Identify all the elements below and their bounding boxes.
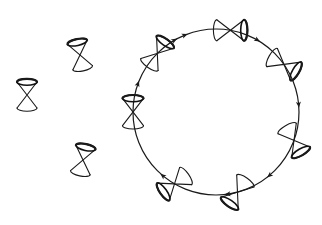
loop-cone-upper-left — [139, 33, 176, 73]
loop-arrow-icon — [181, 32, 188, 39]
loop-cone-right — [276, 120, 311, 160]
loop-cone-left — [123, 95, 144, 129]
free-cone-1 — [67, 37, 93, 73]
loop-arrow-icon — [135, 80, 142, 87]
free-cone-3 — [70, 142, 96, 178]
loop-cone-lower-right — [219, 172, 256, 212]
loop-cone-upper-right — [264, 47, 304, 82]
free-cone-2 — [17, 79, 37, 111]
loop-cone-lower-left — [155, 166, 195, 203]
loop-arrow-icon — [254, 36, 262, 43]
closed-loop-path — [133, 29, 299, 195]
light-cone-diagram — [0, 0, 322, 225]
diagram-svg — [0, 0, 322, 225]
loop-cone-top — [213, 20, 247, 41]
